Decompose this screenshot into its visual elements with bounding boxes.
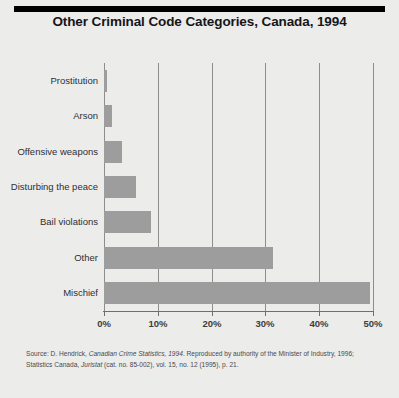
gridline-20pct	[212, 63, 213, 311]
source-line-2-prefix: Statistics Canada,	[26, 361, 81, 368]
x-tick-label-10pct: 10%	[148, 318, 167, 329]
bar-disturbing-the-peace	[104, 176, 136, 198]
x-tick-0pct	[104, 311, 105, 316]
x-tick-label-20pct: 20%	[202, 318, 221, 329]
gridline-10pct	[158, 63, 159, 311]
category-label-mischief: Mischief	[0, 287, 98, 298]
x-tick-50pct	[373, 311, 374, 316]
source-line-1-prefix: Source: D. Hendrick,	[26, 350, 89, 357]
plot-area	[104, 63, 373, 311]
bar-bail-violations	[104, 211, 151, 233]
bar-mischief	[104, 282, 370, 304]
bar-offensive-weapons	[104, 141, 122, 163]
bar-other	[104, 247, 273, 269]
source-note: Source: D. Hendrick, Canadian Crime Stat…	[26, 349, 376, 371]
x-tick-30pct	[265, 311, 266, 316]
x-tick-40pct	[319, 311, 320, 316]
x-tick-label-40pct: 40%	[309, 318, 328, 329]
source-line-1-italic: Canadian Crime Statistics, 1994	[89, 350, 183, 357]
category-label-offensive-weapons: Offensive weapons	[0, 146, 98, 157]
chart-title: Other Criminal Code Categories, Canada, …	[0, 14, 399, 29]
source-line-2-suffix: (cat. no. 85-002), vol. 15, no. 12 (1995…	[102, 361, 238, 368]
category-label-arson: Arson	[0, 110, 98, 121]
gridline-30pct	[265, 63, 266, 311]
category-label-prostitution: Prostitution	[0, 75, 98, 86]
source-line-1-suffix: . Reproduced by authority of the Ministe…	[183, 350, 354, 357]
x-tick-label-0pct: 0%	[97, 318, 111, 329]
x-tick-label-30pct: 30%	[255, 318, 274, 329]
x-tick-10pct	[158, 311, 159, 316]
top-rule-divider	[14, 6, 385, 12]
chart-figure: Other Criminal Code Categories, Canada, …	[0, 0, 399, 398]
category-label-bail-violations: Bail violations	[0, 216, 98, 227]
x-tick-label-50pct: 50%	[363, 318, 382, 329]
source-line-2-italic: Juristat	[81, 361, 102, 368]
category-label-other: Other	[0, 252, 98, 263]
x-axis-line	[103, 311, 374, 312]
gridline-40pct	[319, 63, 320, 311]
source-line-2: Statistics Canada, Juristat (cat. no. 85…	[26, 360, 376, 371]
category-label-disturbing-the-peace: Disturbing the peace	[0, 181, 98, 192]
source-line-1: Source: D. Hendrick, Canadian Crime Stat…	[26, 349, 376, 360]
bar-prostitution	[104, 70, 107, 92]
category-labels-group: ProstitutionArsonOffensive weaponsDistur…	[0, 63, 98, 311]
bar-arson	[104, 105, 112, 127]
gridline-50pct	[373, 63, 374, 311]
x-tick-20pct	[212, 311, 213, 316]
